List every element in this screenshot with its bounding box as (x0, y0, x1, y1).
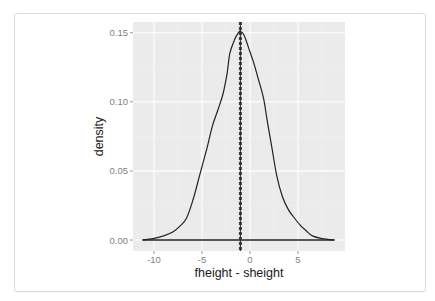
y-tick-label: 0.10 (110, 96, 129, 107)
y-tick-label: 0.00 (110, 235, 129, 246)
y-axis-title: density (92, 116, 106, 156)
y-tick-label: 0.15 (110, 27, 129, 38)
x-tick-label: -10 (147, 254, 161, 265)
y-tick-label: 0.05 (110, 165, 129, 176)
x-tick-label: 0 (247, 254, 252, 265)
x-axis: -10-505 (147, 251, 301, 265)
x-tick-label: 5 (295, 254, 300, 265)
y-axis: 0.000.050.100.15 (110, 27, 134, 245)
x-tick-label: -5 (198, 254, 206, 265)
density-chart: -10-505 0.000.050.100.15 fheight - sheig… (0, 0, 435, 301)
x-axis-title: fheight - sheight (195, 266, 284, 280)
